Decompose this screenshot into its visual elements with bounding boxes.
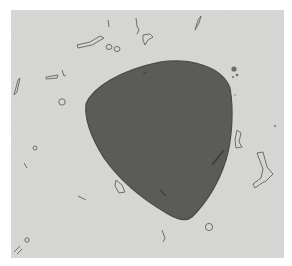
micrograph-field <box>11 10 284 258</box>
micrograph-svg <box>11 10 284 258</box>
